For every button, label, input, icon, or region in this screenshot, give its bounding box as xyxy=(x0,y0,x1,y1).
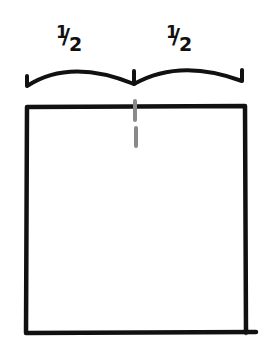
halves-diagram xyxy=(0,0,267,358)
half-label-right: 1 / 2 xyxy=(164,24,194,58)
brace-left xyxy=(27,71,134,86)
brace-right xyxy=(134,70,242,84)
half-label-left: 1 / 2 xyxy=(54,24,84,58)
square-outline xyxy=(26,106,256,333)
denominator: 2 xyxy=(69,35,82,54)
denominator: 2 xyxy=(179,35,192,54)
